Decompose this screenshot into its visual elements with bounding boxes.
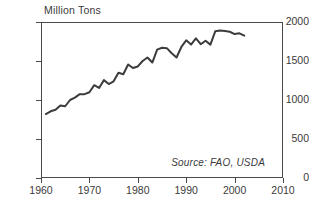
x-tick-mark [89, 178, 90, 183]
x-tick-label: 1960 [21, 184, 61, 196]
x-tick-label: 1970 [69, 184, 109, 196]
x-tick-label: 2010 [263, 184, 303, 196]
x-tick-mark [138, 178, 139, 183]
x-tick-mark [41, 178, 42, 183]
x-tick-label: 1980 [118, 184, 158, 196]
source-note: Source: FAO, USDA [171, 157, 265, 168]
line-series-world-grain-production [46, 31, 244, 114]
x-tick-label: 2000 [215, 184, 255, 196]
data-series-layer [41, 22, 283, 178]
x-tick-mark [186, 178, 187, 183]
x-tick-mark [283, 178, 284, 183]
grain-production-chart: Million Tons 0500100015002000 1960197019… [0, 0, 309, 206]
x-tick-mark [235, 178, 236, 183]
x-tick-label: 1990 [166, 184, 206, 196]
